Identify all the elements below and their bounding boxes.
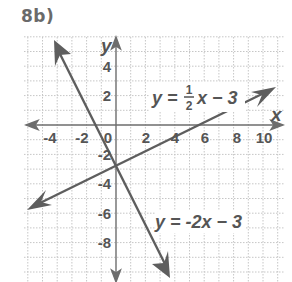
- coordinate-plane: -4 -2 0 2 4 6 8 10 4 2 -2 -4 -6 -8 y x y…: [0, 0, 292, 282]
- x-axis: [26, 121, 283, 130]
- svg-text:y = -2x − 3: y = -2x − 3: [154, 212, 242, 232]
- x-tick-label: -2: [75, 129, 88, 146]
- grid: [24, 37, 284, 282]
- equation-2-label: y = -2x − 3: [154, 211, 245, 233]
- y-tick-label: -6: [98, 205, 111, 222]
- y-axis-label: y: [100, 35, 113, 56]
- x-tick-label: 4: [171, 129, 180, 146]
- x-tick-label: 8: [233, 129, 241, 146]
- x-tick-labels: -4 -2 0 2 4 6 8 10: [43, 129, 272, 146]
- svg-text:x − 3: x − 3: [196, 88, 238, 108]
- x-tick-label: -4: [43, 129, 57, 146]
- y-tick-label: 4: [103, 58, 112, 75]
- x-tick-label: 2: [142, 129, 150, 146]
- x-tick-label: 6: [201, 129, 209, 146]
- y-tick-label: 2: [103, 87, 111, 104]
- x-tick-label: 10: [256, 129, 273, 146]
- line2-up-arrow-icon: [54, 40, 71, 66]
- equation-1-label: y = 1 2 x − 3: [150, 82, 245, 113]
- svg-text:1: 1: [186, 83, 193, 97]
- x-axis-label: x: [270, 104, 283, 125]
- y-tick-label: -8: [98, 234, 111, 251]
- y-tick-label: -4: [98, 175, 112, 192]
- svg-text:y =: y =: [151, 88, 178, 108]
- x-tick-label: 0: [104, 129, 112, 146]
- y-tick-labels: 4 2 -2 -4 -6 -8: [98, 58, 112, 251]
- svg-text:2: 2: [186, 99, 193, 113]
- y-tick-label: -2: [98, 146, 111, 163]
